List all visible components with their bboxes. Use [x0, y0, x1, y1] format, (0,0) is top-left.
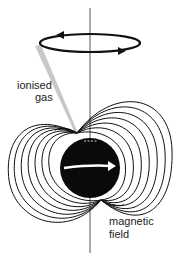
label-ionised: ionised — [17, 79, 52, 91]
pulsar-diagram: ionised gas magnetic field — [0, 0, 181, 261]
label-magnetic: magnetic — [109, 215, 154, 227]
label-field: field — [109, 228, 129, 240]
label-gas: gas — [35, 91, 53, 103]
